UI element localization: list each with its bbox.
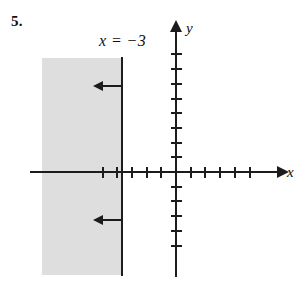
y-axis-tick (171, 112, 182, 114)
y-axis (175, 30, 177, 277)
arrow-head-icon (93, 81, 103, 91)
x-axis-tick (116, 167, 118, 178)
y-axis-tick (171, 186, 182, 188)
problem-number: 5. (11, 12, 23, 30)
y-axis-tick (171, 53, 182, 55)
y-axis-tick (171, 68, 182, 70)
x-axis-tick (234, 167, 236, 178)
x-axis-tick (190, 167, 192, 178)
x-axis-tick (204, 167, 206, 178)
y-axis-tick (171, 230, 182, 232)
y-axis-tick (171, 215, 182, 217)
boundary-line-label: x = −3 (99, 31, 146, 50)
direction-arrow-upper (103, 85, 122, 87)
x-axis (30, 171, 281, 173)
y-axis-tick (171, 142, 182, 144)
x-axis-tick (146, 167, 148, 178)
x-axis-tick (219, 167, 221, 178)
y-axis-tick (171, 127, 182, 129)
x-axis-tick (102, 167, 104, 178)
graph-figure: 5. x = −3 x y (0, 0, 306, 282)
y-axis-tick (171, 200, 182, 202)
x-axis-tick (249, 167, 251, 178)
y-axis-tick (171, 245, 182, 247)
y-axis-tick (171, 98, 182, 100)
arrow-head-icon (93, 215, 103, 225)
x-axis-tick (160, 167, 162, 178)
direction-arrow-lower (103, 219, 122, 221)
boundary-line-x-equals-negative-3 (121, 57, 123, 276)
y-axis-tick (171, 156, 182, 158)
y-axis-label: y (186, 20, 193, 37)
x-axis-label: x (287, 164, 294, 181)
y-axis-arrow-icon (170, 20, 182, 32)
x-axis-tick (131, 167, 133, 178)
shaded-half-plane (42, 58, 123, 275)
y-axis-tick (171, 83, 182, 85)
